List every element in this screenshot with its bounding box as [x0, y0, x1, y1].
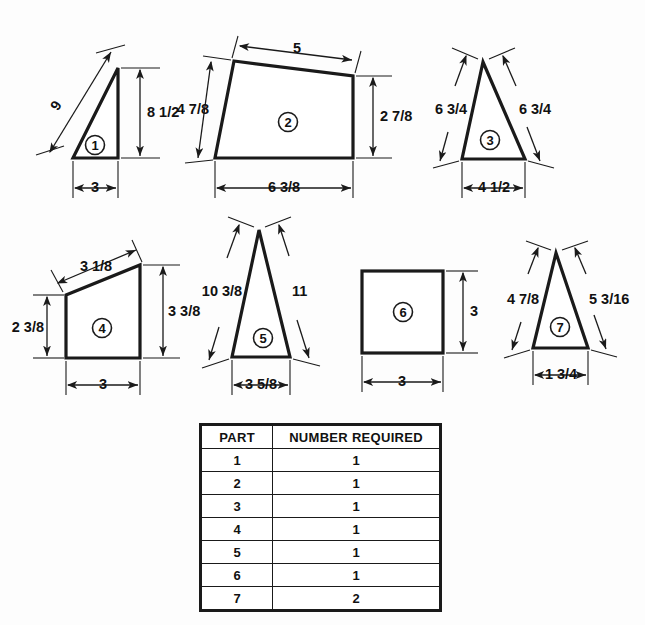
- part-6-dim-height-label: 3: [470, 303, 478, 319]
- part-4-dim-base-label: 3: [99, 376, 107, 392]
- part-4-dim-right-height-label: 3 3/8: [168, 303, 200, 319]
- part-3-dim-base-label: 4 1/2: [478, 179, 510, 195]
- part-3-ext-rs-top: [489, 48, 515, 59]
- part-6-group: 3 3 6: [362, 271, 478, 392]
- part-4-shape: [66, 265, 140, 358]
- cell-qty: 1: [273, 449, 441, 472]
- part-7-dim-right-lower: [594, 315, 606, 349]
- table-row: 4 1: [201, 518, 441, 541]
- table-row: 6 1: [201, 564, 441, 587]
- part-2-group: 5 4 7/8 2 7/8 6 3/8 2: [177, 36, 413, 198]
- part-3-ext-rs-bot: [528, 161, 554, 168]
- part-3-ext-ls-bot: [433, 161, 459, 168]
- part-5-dim-left-label: 10 3/8: [202, 283, 242, 299]
- part-2-ext-lh-top: [203, 56, 231, 60]
- cell-qty: 1: [273, 495, 441, 518]
- part-4-balloon-label: 4: [98, 321, 106, 336]
- part-5-ext-rs-bot: [293, 359, 320, 366]
- part-1-dim-base-label: 3: [91, 179, 99, 195]
- part-5-ext-ls-bot: [202, 359, 229, 368]
- part-5-dim-right-lower: [297, 320, 309, 358]
- part-7-dim-left-upper: [528, 248, 538, 274]
- part-5-group: 10 3/8 11 3 5/8 5: [202, 217, 320, 395]
- table-header-row: PART NUMBER REQUIRED: [201, 425, 441, 449]
- cell-qty: 1: [273, 472, 441, 495]
- cell-part: 7: [201, 587, 273, 611]
- cell-part: 3: [201, 495, 273, 518]
- part-5-dim-left-upper: [227, 225, 239, 258]
- table-row: 1 1: [201, 449, 441, 472]
- part-7-dim-right-upper: [575, 248, 586, 274]
- part-3-dim-left-upper: [455, 56, 466, 86]
- table-row: 3 1: [201, 495, 441, 518]
- cell-part: 6: [201, 564, 273, 587]
- cell-qty: 1: [273, 518, 441, 541]
- part-6-balloon-label: 6: [399, 305, 406, 320]
- part-2-ext-lh-bot: [185, 160, 213, 163]
- part-5-dim-base-label: 3 5/8: [245, 376, 277, 392]
- part-5-dim-left-lower: [209, 327, 219, 360]
- cell-part: 4: [201, 518, 273, 541]
- part-5-dim-right-label: 11: [292, 283, 307, 299]
- part-1-dim-hypotenuse-label: 9: [47, 98, 65, 113]
- table-row: 5 1: [201, 541, 441, 564]
- part-7-ext-ls-bot: [504, 350, 530, 358]
- header-part: PART: [201, 425, 273, 449]
- table-body: 1 1 2 1 3 1 4 1 5 1 6 1: [201, 449, 441, 611]
- part-5-dim-right-upper: [279, 225, 289, 256]
- drawing-sheet: 9 8 1/2 3 1 5 4 7/8: [0, 0, 645, 625]
- part-1-balloon-label: 1: [91, 138, 98, 153]
- parts-quantity-table: PART NUMBER REQUIRED 1 1 2 1 3 1 4 1 5: [199, 423, 442, 612]
- part-7-group: 4 7/8 5 3/16 1 3/4 7: [504, 241, 629, 385]
- part-2-dim-base-label: 6 3/8: [268, 179, 300, 195]
- table-row: 2 1: [201, 472, 441, 495]
- cell-part: 1: [201, 449, 273, 472]
- part-7-dim-base-label: 1 3/4: [545, 366, 577, 382]
- part-4-dim-top-label: 3 1/8: [80, 258, 112, 274]
- part-7-dim-left-label: 4 7/8: [507, 291, 539, 307]
- part-2-ext-ttl: [232, 36, 238, 58]
- part-1-group: 9 8 1/2 3 1: [36, 45, 179, 198]
- cell-part: 2: [201, 472, 273, 495]
- cell-qty: 1: [273, 541, 441, 564]
- part-5-ext-ls-top: [228, 217, 254, 227]
- part-2-dim-left-height-label: 4 7/8: [177, 101, 209, 117]
- table-row: 7 2: [201, 587, 441, 611]
- part-2-dim-top-label: 5: [293, 40, 301, 56]
- cell-qty: 1: [273, 564, 441, 587]
- part-1-ext-bottom: [36, 146, 64, 155]
- part-2-dim-right-height-label: 2 7/8: [380, 108, 412, 124]
- part-5-balloon-label: 5: [259, 331, 266, 346]
- part-6-dim-base-label: 3: [398, 373, 406, 389]
- part-3-dim-right-lower: [527, 127, 540, 161]
- part-3-balloon-label: 3: [486, 133, 493, 148]
- part-4-group: 3 1/8 2 3/8 3 3/8 3 4: [12, 240, 201, 395]
- part-1-dim-height-label: 8 1/2: [147, 104, 179, 120]
- part-7-balloon-label: 7: [556, 320, 563, 335]
- part-7-dim-left-lower: [512, 322, 521, 350]
- part-7-dim-right-label: 5 3/16: [589, 291, 629, 307]
- cell-qty: 2: [273, 587, 441, 611]
- part-3-dim-left-label: 6 3/4: [435, 101, 467, 117]
- part-7-ext-ls-top: [526, 241, 551, 250]
- part-4-dim-left-height-label: 2 3/8: [12, 319, 44, 335]
- part-2-shape: [215, 61, 353, 158]
- part-5-ext-rs-top: [265, 217, 291, 227]
- part-3-group: 6 3/4 6 3/4 4 1/2 3: [433, 48, 554, 198]
- cell-part: 5: [201, 541, 273, 564]
- part-2-balloon-label: 2: [284, 115, 291, 130]
- part-7-ext-rs-bot: [591, 350, 617, 357]
- part-3-dim-left-lower: [440, 132, 448, 161]
- part-3-dim-right-label: 6 3/4: [519, 101, 551, 117]
- header-number-required: NUMBER REQUIRED: [273, 425, 441, 449]
- part-3-dim-right-upper: [503, 56, 516, 86]
- part-2-ext-ttr: [355, 51, 361, 73]
